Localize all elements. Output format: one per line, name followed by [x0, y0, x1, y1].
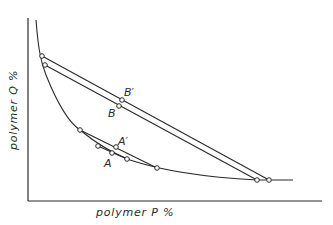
label-a-prime: A′: [117, 135, 129, 148]
y-axis-label: polymer Q %: [7, 70, 20, 151]
point-b-prime-right: [267, 178, 272, 183]
point-b-left: [43, 63, 48, 68]
point-a-left: [96, 144, 101, 149]
label-a: A: [103, 157, 112, 170]
point-a-prime-left: [78, 128, 83, 133]
point-a-right: [125, 157, 130, 162]
point-a-prime-right: [155, 166, 160, 171]
point-b-right: [255, 178, 260, 183]
point-b: [117, 104, 122, 109]
x-axis-label: polymer P %: [95, 206, 174, 219]
tie-line-b-prime: [42, 56, 269, 180]
label-b: B: [108, 107, 116, 120]
phase-diagram: B′ B A′ A polymer P % polymer Q %: [0, 0, 333, 225]
point-a: [110, 151, 115, 156]
binodal-curve: [36, 20, 293, 180]
tie-line-b: [45, 65, 257, 180]
label-b-prime: B′: [124, 86, 135, 99]
point-b-prime-left: [40, 54, 45, 59]
